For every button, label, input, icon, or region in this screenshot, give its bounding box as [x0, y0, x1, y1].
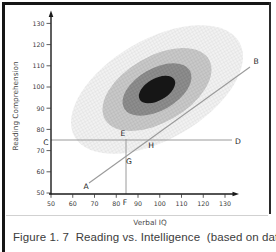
x-tick-130: 130 — [219, 200, 231, 207]
point-label-a: A — [83, 182, 89, 191]
density-contour-ellipses — [50, 0, 265, 180]
y-tick-80: 80 — [36, 126, 44, 133]
point-label-h: H — [148, 141, 154, 150]
y-tick-120: 120 — [32, 41, 44, 48]
x-tick-90: 90 — [134, 200, 142, 207]
x-tick-100: 100 — [154, 200, 166, 207]
figure-panel: 50 60 70 80 90 100 110 120 130 50 60 70 … — [0, 0, 276, 252]
y-tick-90: 90 — [36, 105, 44, 112]
y-axis-arrowhead — [49, 11, 54, 18]
x-axis — [49, 192, 239, 198]
y-tick-130: 130 — [32, 20, 44, 27]
point-label-g: G — [126, 157, 132, 166]
figure-caption: Figure 1. 7 Reading vs. Intelligence (ba… — [13, 231, 273, 243]
point-label-b: B — [253, 57, 258, 66]
y-tick-60: 60 — [36, 168, 44, 175]
y-tick-50: 50 — [36, 189, 44, 196]
x-tick-110: 110 — [175, 200, 187, 207]
y-tick-100: 100 — [32, 83, 44, 90]
x-tick-60: 60 — [69, 200, 77, 207]
x-tick-70: 70 — [90, 200, 98, 207]
y-tick-70: 70 — [36, 147, 44, 154]
point-label-c: C — [43, 138, 48, 147]
y-tick-labels: 50 60 70 80 90 100 110 120 130 — [32, 20, 44, 197]
y-tick-110: 110 — [32, 62, 44, 69]
x-tick-120: 120 — [197, 200, 209, 207]
point-label-e: E — [121, 129, 126, 138]
y-axis — [47, 11, 54, 195]
x-axis-title: Verbal IQ — [133, 218, 167, 227]
x-axis-arrowhead — [233, 192, 240, 197]
y-axis-title: Reading Comprehension — [11, 61, 20, 150]
x-tick-labels: 50 60 70 80 90 100 110 120 130 — [47, 200, 231, 207]
point-label-f: F — [123, 198, 127, 207]
point-label-d: D — [235, 137, 241, 146]
x-tick-50: 50 — [47, 200, 55, 207]
x-tick-80: 80 — [112, 200, 120, 207]
scatter-contour-chart: 50 60 70 80 90 100 110 120 130 50 60 70 … — [0, 0, 276, 252]
